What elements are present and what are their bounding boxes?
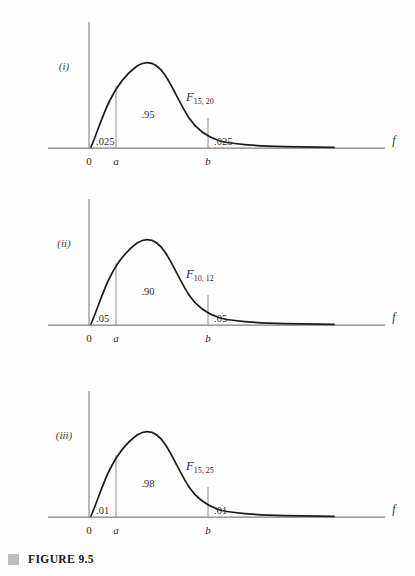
distribution-label-ii: F10, 12 xyxy=(185,267,214,283)
center-prob-iii: .98 xyxy=(141,478,154,489)
right-tail-prob-iii: .01 xyxy=(214,505,227,516)
x-axis-label-ii: f xyxy=(392,310,397,324)
panel-roman-label-iii: (iii) xyxy=(56,429,73,442)
right-tail-prob-i: .025 xyxy=(214,136,232,147)
tick-label-a-ii: a xyxy=(113,332,119,344)
distribution-base-iii: F xyxy=(185,459,194,473)
figure-caption-bar: FIGURE 9.5 xyxy=(0,548,415,570)
distribution-subscript-iii: 15, 25 xyxy=(194,466,214,475)
panel-iii: (iii) .01 .98 .01 F15, 25 0 a b f xyxy=(0,377,415,547)
tick-label-origin-i: 0 xyxy=(86,155,92,167)
x-axis-label-iii: f xyxy=(392,502,397,516)
tick-label-b-iii: b xyxy=(205,524,211,536)
panel-ii: (ii) .05 .90 .05 F10, 12 0 a b f xyxy=(0,185,415,355)
tick-label-a-iii: a xyxy=(113,524,119,536)
right-tail-prob-ii: .05 xyxy=(214,313,227,324)
left-tail-prob-ii: .05 xyxy=(96,313,109,324)
center-prob-i: .95 xyxy=(141,109,154,120)
panel-roman-label-i: (i) xyxy=(59,60,70,73)
distribution-label-i: F15, 20 xyxy=(185,90,214,106)
distribution-subscript-ii: 10, 12 xyxy=(194,274,214,283)
caption-swatch-icon xyxy=(8,554,19,565)
center-prob-ii: .90 xyxy=(141,286,154,297)
x-axis-label-i: f xyxy=(392,133,397,147)
panel-roman-label-ii: (ii) xyxy=(57,237,71,250)
left-tail-prob-i: .025 xyxy=(96,136,114,147)
tick-label-b-i: b xyxy=(205,155,211,167)
tick-label-a-i: a xyxy=(113,155,119,167)
tick-label-b-ii: b xyxy=(205,332,211,344)
distribution-label-iii: F15, 25 xyxy=(185,459,214,475)
figure-caption-text: FIGURE 9.5 xyxy=(28,553,94,565)
tick-label-origin-iii: 0 xyxy=(86,524,92,536)
distribution-base-ii: F xyxy=(185,267,194,281)
distribution-subscript-i: 15, 20 xyxy=(194,97,214,106)
panel-i: (i) .025 .95 .025 F15, 20 0 a b f xyxy=(0,8,415,178)
tick-label-origin-ii: 0 xyxy=(86,332,92,344)
left-tail-prob-iii: .01 xyxy=(96,505,109,516)
distribution-base-i: F xyxy=(185,90,194,104)
figure-container: (i) .025 .95 .025 F15, 20 0 a b f xyxy=(0,0,415,576)
